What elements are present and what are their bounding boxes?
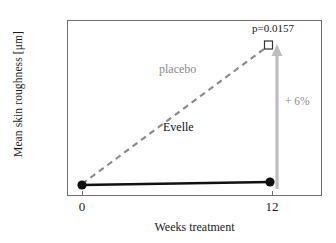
x-axis-title: Weeks treatment <box>67 220 322 235</box>
x-tick-label-0: 0 <box>62 199 102 215</box>
percent-change-annotation: + 6% <box>285 95 310 107</box>
chart-figure: Mean skin roughness [μm] 225 220 215 210… <box>0 0 336 243</box>
p-value-annotation: p=0.0157 <box>252 22 294 34</box>
plot-area <box>67 20 322 196</box>
x-tick-mark-12 <box>272 191 273 196</box>
y-axis-title: Mean skin roughness [μm] <box>12 14 24 174</box>
x-tick-label-12: 12 <box>252 199 292 215</box>
x-tick-mark-0 <box>82 191 83 196</box>
series-label-evelle: Evelle <box>163 120 194 135</box>
series-label-placebo: placebo <box>159 62 196 77</box>
